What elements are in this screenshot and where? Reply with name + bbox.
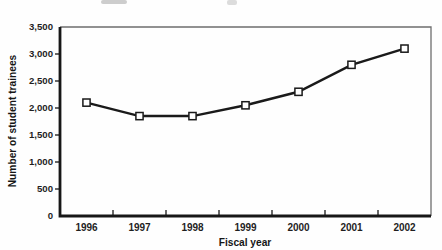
x-tick-label: 1997 [128, 222, 151, 233]
data-point-marker [242, 102, 249, 109]
data-point-marker [189, 113, 196, 120]
data-point-marker [348, 61, 355, 68]
y-tick-label: 3,500 [29, 21, 53, 32]
y-tick-label: 2,000 [29, 102, 53, 113]
x-axis-title: Fiscal year [219, 237, 272, 248]
plot-frame [60, 27, 431, 216]
y-tick-label: 1,500 [29, 129, 53, 140]
y-tick-label: 1,000 [29, 156, 53, 167]
y-tick-label: 0 [48, 210, 53, 221]
data-point-marker [295, 88, 302, 95]
axes-lines [60, 27, 431, 216]
y-axis-title: Number of student trainees [7, 54, 18, 187]
x-tick-label: 2000 [287, 222, 310, 233]
x-tick-label: 1999 [234, 222, 257, 233]
chart-figure: 05001,0001,5002,0002,5003,0003,500 19961… [0, 0, 442, 250]
y-tick-label: 2,500 [29, 75, 53, 86]
x-tick-labels: 1996199719981999200020012002 [75, 222, 416, 233]
x-tick-label: 1996 [75, 222, 98, 233]
x-tick-label: 2002 [393, 222, 416, 233]
axis-ticks [55, 54, 378, 216]
data-point-marker [401, 45, 408, 52]
data-point-marker [136, 113, 143, 120]
y-tick-labels: 05001,0001,5002,0002,5003,0003,500 [29, 21, 53, 221]
x-tick-label: 1998 [181, 222, 204, 233]
y-tick-label: 3,000 [29, 48, 53, 59]
data-point-marker [83, 99, 90, 106]
y-tick-label: 500 [37, 183, 53, 194]
line-chart-canvas: 05001,0001,5002,0002,5003,0003,500 19961… [0, 0, 442, 250]
x-tick-label: 2001 [340, 222, 363, 233]
data-series [83, 45, 408, 120]
